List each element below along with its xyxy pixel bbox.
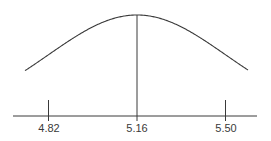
- bell-curve-chart: [0, 0, 271, 141]
- tick-label-right: 5.50: [215, 122, 236, 134]
- tick-label-mean: 5.16: [126, 122, 147, 134]
- tick-label-left: 4.82: [38, 122, 59, 134]
